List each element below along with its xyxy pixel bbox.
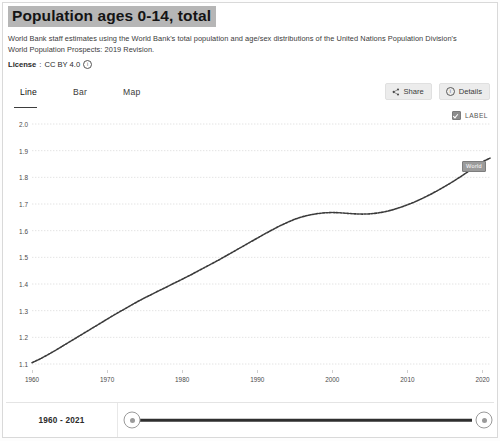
y-tick-label: 1.9 — [19, 147, 28, 154]
x-tick-label: 2010 — [400, 376, 414, 383]
legend-label-text: LABEL — [465, 112, 488, 119]
tab-list: Line Bar Map — [14, 80, 170, 108]
tab-map[interactable]: Map — [117, 80, 154, 108]
indicator-description: World Bank staff estimates using the Wor… — [8, 33, 478, 56]
plot-area[interactable]: World — [32, 124, 490, 364]
legend-label-checkbox[interactable] — [452, 111, 461, 120]
x-tick-mark — [182, 370, 183, 373]
x-tick-label: 2000 — [325, 376, 339, 383]
data-point-label-world[interactable]: World — [462, 161, 486, 172]
y-tick-label: 1.2 — [19, 334, 28, 341]
y-tick-label: 1.8 — [19, 174, 28, 181]
y-tick-label: 1.3 — [19, 307, 28, 314]
license-separator: : — [39, 60, 41, 69]
slider-handle-min[interactable] — [124, 412, 141, 429]
gridlines — [32, 124, 490, 364]
details-button[interactable]: i Details — [439, 83, 490, 100]
y-tick-label: 1.4 — [19, 280, 28, 287]
x-tick-label: 1970 — [100, 376, 114, 383]
share-icon — [392, 88, 400, 96]
x-tick-mark — [407, 370, 408, 373]
share-button[interactable]: Share — [385, 83, 432, 100]
x-tick-mark — [482, 370, 483, 373]
y-tick-label: 1.7 — [19, 200, 28, 207]
year-range-text: 1960 - 2021 — [6, 403, 118, 437]
y-tick-label: 1.1 — [19, 361, 28, 368]
x-tick-label: 1960 — [25, 376, 39, 383]
tab-bar-chart[interactable]: Bar — [67, 80, 101, 108]
license-row: License : CC BY 4.0 i — [8, 60, 490, 69]
x-tick-mark — [257, 370, 258, 373]
info-circle-icon: i — [446, 87, 455, 96]
year-range-slider[interactable] — [118, 403, 494, 437]
x-tick-label: 2020 — [475, 376, 489, 383]
share-button-label: Share — [404, 87, 424, 96]
license-value[interactable]: CC BY 4.0 — [44, 60, 80, 69]
x-tick-label: 1980 — [175, 376, 189, 383]
x-tick-mark — [32, 370, 33, 373]
info-icon[interactable]: i — [83, 60, 92, 69]
chart-container: LABEL 1.11.21.31.41.51.61.71.81.92.0 Wor… — [6, 108, 494, 396]
series-line-world — [32, 158, 490, 363]
legend[interactable]: LABEL — [452, 111, 488, 120]
slider-track[interactable] — [140, 419, 472, 422]
slider-handle-max[interactable] — [476, 412, 493, 429]
tab-line[interactable]: Line — [14, 80, 51, 108]
x-tick-label: 1990 — [250, 376, 264, 383]
y-axis-labels: 1.11.21.31.41.51.61.71.81.92.0 — [6, 124, 30, 364]
page-title: Population ages 0-14, total — [8, 6, 216, 27]
license-label: License — [8, 60, 36, 69]
x-tick-mark — [332, 370, 333, 373]
toolbar-actions: Share i Details — [385, 83, 490, 100]
x-tick-mark — [107, 370, 108, 373]
y-tick-label: 2.0 — [19, 121, 28, 128]
y-tick-label: 1.6 — [19, 227, 28, 234]
tab-bar: Line Bar Map Share i Details — [6, 80, 494, 109]
y-tick-label: 1.5 — [19, 254, 28, 261]
details-button-label: Details — [459, 87, 482, 96]
x-axis-labels: 1960197019801990200020102020 — [32, 370, 490, 388]
footer: 1960 - 2021 — [6, 402, 494, 437]
header: Population ages 0-14, total World Bank s… — [0, 0, 500, 78]
line-chart-svg — [32, 124, 490, 364]
